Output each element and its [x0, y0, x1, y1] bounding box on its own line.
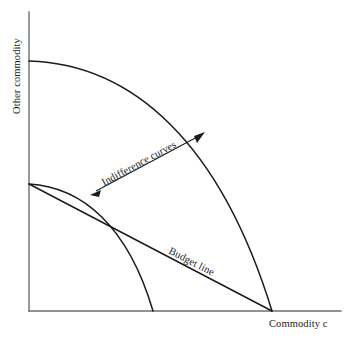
indifference-arrow-head-lower	[90, 190, 101, 197]
economics-figure: Commodity c Other commodity Indifference…	[0, 0, 349, 341]
y-axis-label: Other commodity	[11, 37, 22, 114]
x-axis-label: Commodity c	[269, 318, 328, 329]
outer-indifference-curve	[29, 61, 272, 311]
indifference-arrow-head-upper	[194, 132, 205, 143]
budget-line-label: Budget line	[167, 245, 216, 278]
budget-line	[29, 184, 272, 311]
indifference-curves-label: Indifference curves	[100, 138, 178, 187]
inner-indifference-curve	[29, 184, 153, 311]
figure-root: Commodity c Other commodity Indifference…	[0, 0, 349, 341]
